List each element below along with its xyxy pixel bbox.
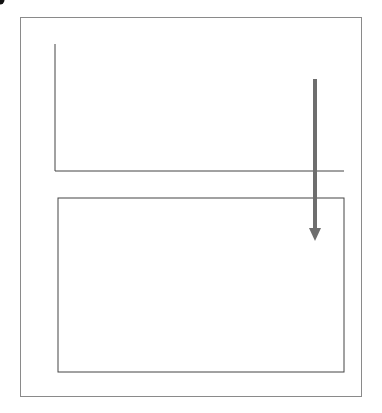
transfer-arrow [309,79,321,241]
probability-plot-figure [0,0,382,413]
bottom-chart-highlight-point [0,0,5,5]
top-chart-axes [55,44,344,171]
bottom-chart-border [58,198,344,372]
